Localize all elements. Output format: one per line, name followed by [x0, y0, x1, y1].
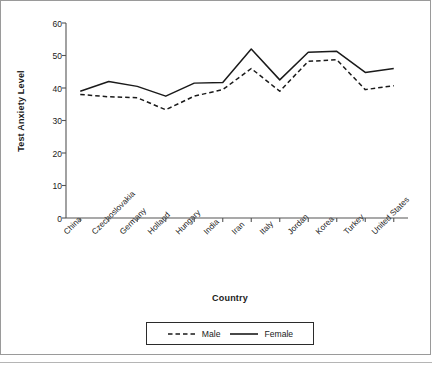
legend-label-male: Male — [202, 329, 221, 339]
legend-label-female: Female — [264, 329, 293, 339]
legend: Male Female — [146, 322, 314, 345]
legend-entry-female: Female — [229, 329, 293, 339]
series-line-female — [80, 49, 394, 96]
legend-entry-male: Male — [167, 329, 221, 339]
legend-swatch-female-solid — [229, 330, 259, 338]
x-tick-marks — [80, 218, 394, 222]
chart-page: Test Anxiety Level Country 60 50 40 30 2… — [0, 0, 432, 372]
y-tick-marks — [62, 23, 66, 218]
legend-swatch-male-dashed — [167, 330, 197, 338]
plot-area — [0, 0, 432, 372]
